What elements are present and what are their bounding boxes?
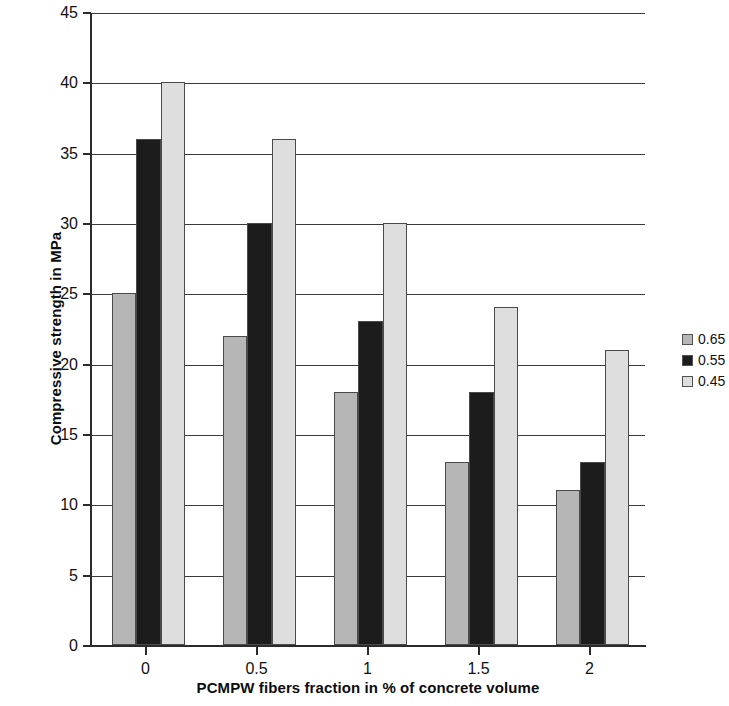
legend-item: 0.45 [682, 371, 725, 391]
x-tick-mark [145, 646, 147, 655]
x-tick-label: 1 [363, 660, 372, 678]
y-tick-mark [83, 223, 91, 225]
legend: 0.650.550.45 [682, 329, 725, 392]
y-tick-label: 5 [69, 567, 78, 585]
y-tick-label: 45 [60, 4, 78, 22]
gridline [90, 13, 645, 14]
bar [494, 307, 519, 645]
bar [247, 223, 272, 645]
bar [112, 293, 137, 645]
y-tick-mark [83, 575, 91, 577]
y-tick-label: 20 [60, 356, 78, 374]
legend-label: 0.65 [698, 331, 725, 347]
bar [272, 139, 297, 645]
bar [469, 392, 494, 645]
x-axis-title: PCMPW fibers fraction in % of concrete v… [90, 679, 646, 696]
bar [334, 392, 359, 645]
x-tick-label: 0.5 [245, 660, 267, 678]
bar [556, 490, 581, 645]
y-tick-label: 40 [60, 74, 78, 92]
bar [580, 462, 605, 645]
y-tick-label: 15 [60, 426, 78, 444]
x-tick-label: 1.5 [467, 660, 489, 678]
y-tick-mark [83, 153, 91, 155]
x-tick-mark [367, 646, 369, 655]
bar [383, 223, 408, 645]
y-tick-mark [83, 645, 91, 647]
bar [223, 336, 248, 645]
x-tick-mark [256, 646, 258, 655]
y-tick-label: 10 [60, 496, 78, 514]
legend-item: 0.55 [682, 350, 725, 370]
x-tick-label: 0 [141, 660, 150, 678]
legend-swatch-icon [682, 355, 693, 366]
bar [161, 82, 186, 645]
x-tick-mark [478, 646, 480, 655]
chart-figure: Compressive strength in MPa 051015202530… [0, 0, 729, 706]
legend-swatch-icon [682, 334, 693, 345]
bar [136, 139, 161, 645]
plot-area: 051015202530354045 00.511.52 [90, 13, 645, 646]
y-tick-mark [83, 12, 91, 14]
y-tick-mark [83, 293, 91, 295]
legend-swatch-icon [682, 376, 693, 387]
y-tick-mark [83, 434, 91, 436]
bar [358, 321, 383, 645]
x-tick-label: 2 [585, 660, 594, 678]
y-tick-label: 30 [60, 215, 78, 233]
bar [605, 350, 630, 645]
y-tick-mark [83, 82, 91, 84]
legend-item: 0.65 [682, 329, 725, 349]
y-tick-label: 25 [60, 285, 78, 303]
legend-label: 0.45 [698, 373, 725, 389]
y-tick-label: 0 [69, 637, 78, 655]
legend-label: 0.55 [698, 352, 725, 368]
y-tick-mark [83, 364, 91, 366]
y-axis-line [90, 13, 92, 647]
x-tick-mark [589, 646, 591, 655]
y-tick-label: 35 [60, 145, 78, 163]
y-tick-mark [83, 504, 91, 506]
bar [445, 462, 470, 645]
